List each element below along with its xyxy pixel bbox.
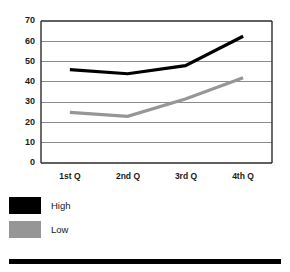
- y-tick-label-30: 30: [25, 96, 35, 106]
- y-tick-label-40: 40: [25, 76, 35, 86]
- legend-swatch-low: [9, 221, 41, 238]
- x-tick-label-2nd-q: 2nd Q: [116, 171, 140, 181]
- line-chart: 70 60 50 40 30 20 10 0 1st Q 2nd Q 3rd Q…: [0, 0, 290, 272]
- y-tick-label-20: 20: [25, 117, 35, 127]
- y-tick-label-50: 50: [25, 56, 35, 66]
- x-tick-label-3rd-q: 3rd Q: [175, 171, 198, 181]
- x-tick-label-1st-q: 1st Q: [59, 171, 81, 181]
- legend-label-high: High: [51, 200, 71, 211]
- y-tick-label-70: 70: [25, 15, 35, 25]
- legend-label-low: Low: [51, 224, 69, 235]
- y-tick-label-0: 0: [30, 157, 35, 167]
- y-tick-label-60: 60: [25, 36, 35, 46]
- x-tick-label-4th-q: 4th Q: [232, 171, 254, 181]
- footer-rule: [9, 259, 281, 264]
- legend-swatch-high: [9, 197, 41, 214]
- y-tick-label-10: 10: [25, 137, 35, 147]
- chart-figure: 70 60 50 40 30 20 10 0 1st Q 2nd Q 3rd Q…: [0, 0, 290, 272]
